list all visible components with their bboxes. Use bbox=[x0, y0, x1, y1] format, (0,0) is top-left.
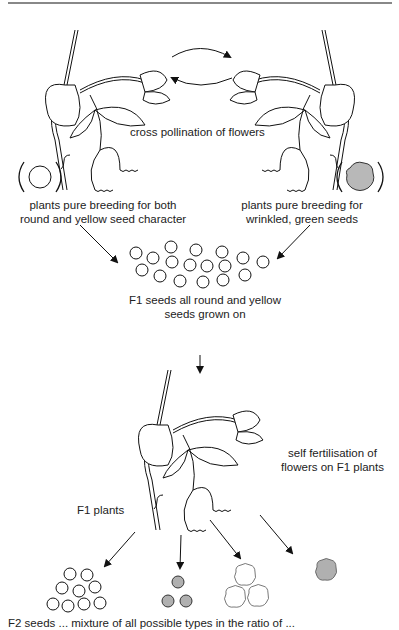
f2-round-green-seeds-icon bbox=[162, 576, 192, 607]
label-f1-plants: F1 plants bbox=[77, 503, 124, 517]
label-self-fert-line2: flowers on F1 plants bbox=[270, 460, 395, 474]
arrow-to-f2-group3-icon bbox=[210, 520, 240, 558]
f1-plant-icon bbox=[138, 370, 263, 532]
parent-plant-right-icon bbox=[230, 30, 355, 192]
parent-seed-round-yellow-icon bbox=[19, 162, 61, 192]
label-f1-seeds-line1: F1 seeds all round and yellow bbox=[110, 293, 300, 307]
arrow-to-f2-group1-icon bbox=[105, 532, 135, 566]
parent-plant-left-icon bbox=[45, 30, 170, 192]
label-self-fertilisation: self fertilisation of flowers on F1 plan… bbox=[270, 446, 395, 474]
pollination-arrow-right-icon bbox=[172, 49, 230, 58]
arrow-left-to-f1-icon bbox=[80, 225, 117, 262]
label-parent-right-line1: plants pure breeding for bbox=[222, 198, 382, 212]
f1-seeds-icon bbox=[130, 241, 269, 288]
arrow-to-f2-group4-icon bbox=[260, 515, 292, 553]
label-parent-right: plants pure breeding for wrinkled, green… bbox=[222, 198, 382, 226]
label-bottom-caption-cutoff: F2 seeds ... mixture of all possible typ… bbox=[8, 616, 398, 630]
pollination-arrow-left-icon bbox=[172, 78, 232, 85]
arrow-to-f2-group2-icon bbox=[180, 535, 181, 568]
label-self-fert-line1: self fertilisation of bbox=[270, 446, 395, 460]
parent-seed-wrinkled-green-icon bbox=[337, 162, 383, 192]
arrow-right-to-f1-icon bbox=[278, 225, 310, 258]
label-parent-left: plants pure breeding for both round and … bbox=[8, 198, 198, 226]
label-cross-pollination: cross pollination of flowers bbox=[130, 125, 265, 139]
label-f1-seeds-line2: seeds grown on bbox=[110, 307, 300, 321]
f2-wrinkled-yellow-seeds-icon bbox=[225, 564, 269, 608]
f2-wrinkled-green-seed-icon bbox=[316, 559, 337, 581]
label-f1-seeds: F1 seeds all round and yellow seeds grow… bbox=[110, 293, 300, 321]
label-parent-left-line2: round and yellow seed character bbox=[8, 212, 198, 226]
label-parent-right-line2: wrinkled, green seeds bbox=[222, 212, 382, 226]
label-parent-left-line1: plants pure breeding for both bbox=[8, 198, 198, 212]
f2-round-yellow-seeds-icon bbox=[47, 568, 106, 612]
